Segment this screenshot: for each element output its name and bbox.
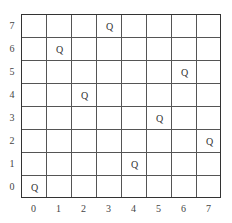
chess-board: QQQQQQQQ: [21, 14, 221, 198]
row-label: 3: [7, 106, 17, 129]
queen-piece: Q: [22, 176, 47, 199]
column-label: 6: [171, 202, 196, 214]
grid-line-vertical: [171, 15, 172, 197]
column-label: 5: [146, 202, 171, 214]
row-label: 1: [7, 152, 17, 175]
row-label: 7: [7, 14, 17, 37]
queen-piece: Q: [122, 153, 147, 176]
queen-piece: Q: [47, 38, 72, 61]
queen-piece: Q: [172, 61, 197, 84]
grid-line-horizontal: [22, 175, 220, 176]
row-label: 5: [7, 60, 17, 83]
column-label: 4: [121, 202, 146, 214]
grid-line-horizontal: [22, 129, 220, 130]
column-label: 1: [46, 202, 71, 214]
grid-line-horizontal: [22, 106, 220, 107]
queen-piece: Q: [97, 15, 122, 38]
column-label: 7: [196, 202, 221, 214]
grid-line-vertical: [196, 15, 197, 197]
queen-piece: Q: [197, 130, 222, 153]
column-label: 2: [71, 202, 96, 214]
row-label: 4: [7, 83, 17, 106]
column-label: 0: [21, 202, 46, 214]
column-label: 3: [96, 202, 121, 214]
row-label: 2: [7, 129, 17, 152]
queen-piece: Q: [72, 84, 97, 107]
row-label: 6: [7, 37, 17, 60]
queen-piece: Q: [147, 107, 172, 130]
grid-line-horizontal: [22, 152, 220, 153]
row-label: 0: [7, 175, 17, 198]
